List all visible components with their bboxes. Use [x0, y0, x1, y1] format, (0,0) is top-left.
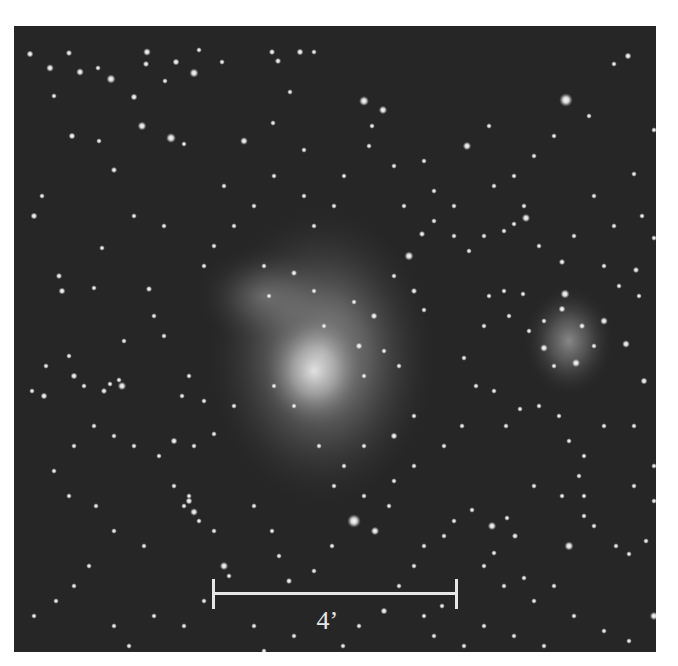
scale-bar-right-tick [455, 579, 458, 609]
scale-bar [213, 592, 456, 595]
scale-bar-left-tick [212, 579, 215, 609]
star-field [14, 26, 656, 652]
scale-bar-label: 4’ [317, 608, 339, 634]
astronomical-image: 4’ [14, 26, 656, 652]
nebula-glow [194, 206, 614, 506]
